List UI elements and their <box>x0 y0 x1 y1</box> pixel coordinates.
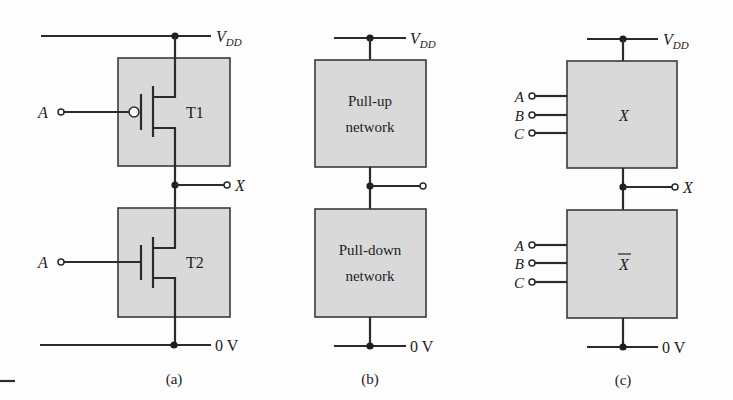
t1-gate-bubble <box>129 107 139 117</box>
t1-label: T1 <box>186 104 204 121</box>
ground-node <box>619 343 626 350</box>
input-a-label-top: A <box>514 89 525 105</box>
panel-a: VDD A T1 X A T2 0 V (a <box>37 28 246 388</box>
t2-label: T2 <box>186 254 204 271</box>
caption-c: (c) <box>615 372 632 389</box>
input-c-terminal-top <box>529 130 535 136</box>
pull-down-label-line2: network <box>345 268 395 284</box>
vdd-label: VDD <box>663 31 689 51</box>
input-a-terminal-bottom <box>58 259 64 265</box>
x-block-label: X <box>618 107 630 124</box>
caption-a: (a) <box>166 371 183 388</box>
panel-c: VDD X A B C X X A B C 0 V (c) <box>514 31 694 389</box>
input-b-terminal-top <box>529 112 535 118</box>
ground-label: 0 V <box>410 338 434 355</box>
ground-node <box>170 341 177 348</box>
input-c-terminal-bottom <box>529 279 535 285</box>
cmos-logic-diagram: VDD A T1 X A T2 0 V (a <box>0 0 733 400</box>
pull-up-network-block <box>315 60 426 167</box>
pull-up-label-line1: Pull-up <box>348 93 392 109</box>
caption-b: (b) <box>361 371 379 388</box>
input-b-terminal-bottom <box>529 260 535 266</box>
pull-up-label-line2: network <box>345 119 395 135</box>
input-a-label-bottom: A <box>37 254 48 271</box>
ground-node <box>366 342 373 349</box>
ground-label: 0 V <box>662 339 686 356</box>
pull-down-label-line1: Pull-down <box>339 242 402 258</box>
input-c-label-top: C <box>514 126 525 142</box>
vdd-label: VDD <box>410 30 436 50</box>
output-label: X <box>682 179 694 196</box>
vdd-label: VDD <box>216 28 242 48</box>
output-terminal <box>672 184 678 190</box>
input-c-label-bottom: C <box>514 275 525 291</box>
pull-down-network-block <box>315 209 426 317</box>
input-a-terminal-top <box>529 93 535 99</box>
output-terminal <box>420 183 426 189</box>
input-a-label-top: A <box>37 104 48 121</box>
input-b-label-top: B <box>515 108 524 124</box>
input-a-label-bottom: A <box>514 238 525 254</box>
input-a-terminal-top <box>58 109 64 115</box>
panel-b: VDD Pull-up network Pull-down network 0 … <box>315 30 436 388</box>
output-terminal <box>224 182 230 188</box>
ground-label: 0 V <box>215 337 239 354</box>
input-b-label-bottom: B <box>515 256 524 272</box>
x-bar-block-label: X <box>618 256 630 273</box>
output-label: X <box>234 177 246 194</box>
input-a-terminal-bottom <box>529 242 535 248</box>
